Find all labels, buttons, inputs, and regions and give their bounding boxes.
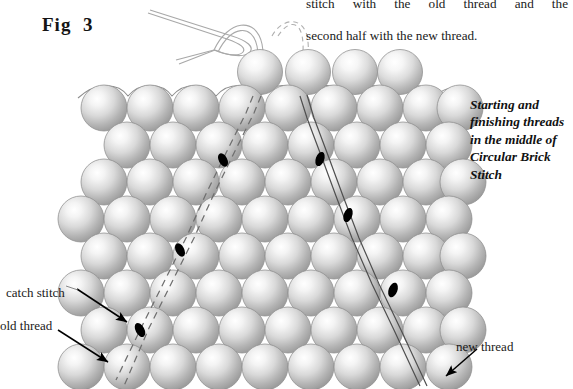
old-thread-path [116, 96, 261, 386]
old-thread-stitch-markers [133, 152, 231, 339]
instruction-paragraph: stitch with the old thread and the secon… [306, 0, 568, 44]
figure-caption: Starting and finishing threads in the mi… [470, 96, 573, 183]
bead-row-6 [58, 270, 472, 316]
new-thread-path [300, 95, 427, 386]
needle-thread-dashed [272, 22, 308, 100]
bead-row-0 [238, 50, 423, 95]
label-catch-stitch: catch stitch [6, 285, 65, 301]
bead-row-7 [81, 307, 486, 353]
instruction-line-1: stitch with the old thread and the [306, 0, 568, 28]
bead-row-5 [81, 233, 486, 279]
beadwork-svg [0, 0, 573, 389]
old-thread-arrow [58, 330, 108, 362]
figure-label: Fig 3 [42, 14, 93, 36]
bead-row-1 [81, 85, 483, 131]
bead-row-4 [58, 196, 472, 242]
top-connecting-thread [78, 86, 462, 99]
needle-icon [148, 10, 251, 64]
bead-row-8 [58, 344, 472, 389]
bead-row-2 [104, 122, 472, 168]
catch-stitch-arrow [77, 289, 127, 322]
label-new-thread: new thread [456, 339, 513, 355]
needle-thread [214, 25, 263, 98]
instruction-line-2: second half with the new thread. [306, 28, 477, 43]
bead-row-3 [81, 159, 486, 205]
label-old-thread: old thread [0, 318, 52, 334]
new-thread-stitch-markers [314, 151, 400, 299]
illustration-canvas: Fig 3 stitch with the old thread and the… [0, 0, 573, 389]
catch-stitch-leader [66, 286, 78, 290]
